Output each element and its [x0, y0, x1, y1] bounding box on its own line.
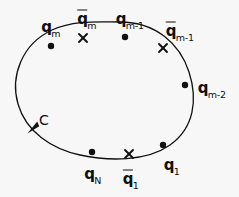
marker-dot-q-m-2 [182, 82, 188, 88]
label-subscript-qbar-m: m [87, 20, 96, 30]
label-base-q-N: q [84, 167, 94, 182]
direction-arrowhead [28, 121, 40, 133]
label-base-q-m-1: q [116, 12, 126, 27]
label-base-q-1: q [164, 158, 174, 173]
marker-cross-qbar-1 [125, 150, 133, 158]
label-subscript-qbar-m-1: m-1 [176, 32, 194, 42]
marker-label-q-1: q1 [164, 157, 180, 173]
marker-dot-q-1 [160, 142, 166, 148]
marker-label-qbar-m: qm [77, 10, 97, 27]
marker-cross-qbar-m [79, 34, 87, 42]
contour-label-C: C [39, 113, 49, 127]
marker-dot-q-m [48, 43, 54, 49]
label-subscript-q-m-2: m-2 [208, 90, 226, 100]
marker-label-q-m-1: qm-1 [116, 11, 145, 27]
marker-label-q-m-2: qm-2 [198, 80, 227, 96]
marker-cross-qbar-m-1 [159, 44, 167, 52]
label-base-qbar-1: q [123, 170, 133, 187]
marker-label-q-N: qN [84, 166, 101, 182]
marker-label-qbar-1: q1 [123, 170, 139, 187]
marker-group [48, 34, 188, 158]
marker-label-q-m: qm [41, 19, 61, 35]
contour-diagram: qmqmqm-1qm-1qm-2q1q1qN C [0, 0, 239, 197]
label-base-qbar-m-1: q [166, 22, 176, 39]
label-base-q-m: q [41, 20, 51, 35]
marker-dot-q-N [89, 149, 95, 155]
contour-curve-C [16, 22, 194, 159]
marker-label-qbar-m-1: qm-1 [166, 22, 195, 39]
label-subscript-q-1: 1 [174, 167, 180, 177]
label-subscript-q-N: N [94, 176, 101, 186]
label-subscript-q-m-1: m-1 [126, 21, 144, 31]
marker-dot-q-m-1 [122, 34, 128, 40]
label-subscript-q-m: m [51, 29, 60, 39]
label-base-qbar-m: q [77, 10, 87, 27]
label-base-q-m-2: q [198, 81, 208, 96]
contour-svg [0, 0, 239, 197]
label-subscript-qbar-1: 1 [133, 180, 139, 190]
